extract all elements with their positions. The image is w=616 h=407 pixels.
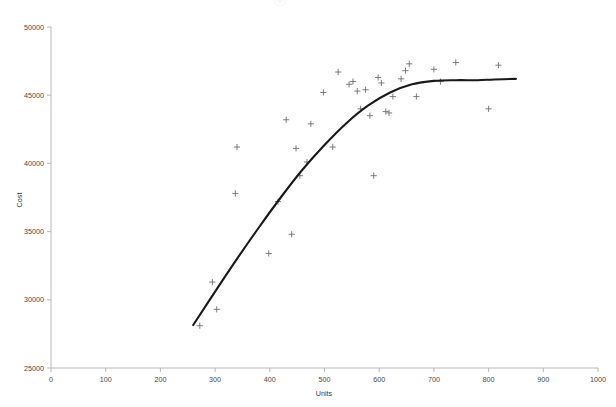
data-point-marker — [453, 59, 459, 65]
data-point-marker — [214, 306, 220, 312]
y-tick-label: 30000 — [24, 295, 44, 304]
data-point-marker — [308, 121, 314, 127]
data-point-marker — [383, 108, 389, 114]
y-tick-label: 50000 — [24, 23, 44, 32]
x-tick-label: 900 — [537, 375, 549, 384]
data-point-marker — [320, 89, 326, 95]
y-tick-label: 45000 — [24, 91, 44, 100]
data-point-marker — [289, 231, 295, 237]
x-tick-label: 600 — [373, 375, 385, 384]
data-point-marker — [386, 110, 392, 116]
data-point-marker — [330, 144, 336, 150]
data-point-marker — [375, 74, 381, 80]
data-point-marker — [266, 250, 272, 256]
x-axis: 01002003004005006007008009001000 — [49, 368, 606, 384]
chart-container: 250003000035000400004500050000 010020030… — [0, 0, 616, 407]
data-point-marker — [367, 113, 373, 119]
x-tick-label: 500 — [319, 375, 331, 384]
data-point-marker — [402, 68, 408, 74]
data-point-marker — [232, 190, 238, 196]
x-tick-label: 1000 — [590, 375, 606, 384]
data-point-marker — [486, 106, 492, 112]
x-axis-title: Units — [316, 389, 333, 398]
data-point-marker — [413, 93, 419, 99]
data-point-marker — [406, 61, 412, 67]
top-artifact — [275, 0, 285, 6]
data-point-marker — [362, 87, 368, 93]
data-point-marker — [390, 93, 396, 99]
data-point-marker — [234, 144, 240, 150]
data-point-marker — [495, 62, 501, 68]
data-point-marker — [371, 173, 377, 179]
x-tick-label: 800 — [483, 375, 495, 384]
y-tick-label: 25000 — [24, 364, 44, 373]
data-point-marker — [346, 81, 352, 87]
y-axis-title: Cost — [15, 193, 24, 208]
data-point-marker — [293, 145, 299, 151]
data-point-marker — [197, 323, 203, 329]
data-point-marker — [283, 117, 289, 123]
data-point-marker — [431, 66, 437, 72]
data-point-marker — [350, 78, 356, 84]
data-point-marker — [335, 69, 341, 75]
data-point-marker — [398, 76, 404, 82]
data-point-marker — [209, 279, 215, 285]
x-tick-label: 400 — [264, 375, 276, 384]
scatter-markers — [197, 59, 502, 328]
data-point-marker — [354, 88, 360, 94]
scatter-plot-svg: 250003000035000400004500050000 010020030… — [0, 0, 616, 407]
y-axis: 250003000035000400004500050000 — [24, 23, 51, 373]
x-tick-label: 200 — [154, 375, 166, 384]
x-tick-label: 300 — [209, 375, 221, 384]
data-point-marker — [378, 80, 384, 86]
y-tick-label: 35000 — [24, 227, 44, 236]
y-tick-label: 40000 — [24, 159, 44, 168]
x-tick-label: 0 — [49, 375, 53, 384]
fitted-trend-line — [193, 79, 516, 325]
x-tick-label: 700 — [428, 375, 440, 384]
x-tick-label: 100 — [100, 375, 112, 384]
